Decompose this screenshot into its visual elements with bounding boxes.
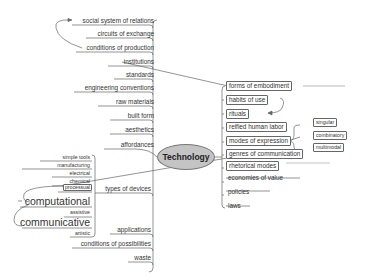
node-built-form[interactable]: built form <box>128 113 154 119</box>
node-processual[interactable]: processual <box>63 184 92 191</box>
connector-lines <box>0 0 367 280</box>
central-topic-label: Technology <box>162 152 209 162</box>
node-communicative[interactable]: communicative <box>20 217 90 228</box>
node-standards[interactable]: standards <box>126 72 154 78</box>
node-computational[interactable]: computational <box>25 196 90 207</box>
node-forms-of-embodiment[interactable]: forms of embodiment <box>226 81 292 91</box>
node-raw-materials[interactable]: raw materials <box>116 99 154 105</box>
central-topic-technology[interactable]: Technology <box>157 144 215 170</box>
node-engineering-conventions[interactable]: engineering conventions <box>85 85 154 91</box>
node-conditions-of-production[interactable]: conditions of production <box>86 45 154 51</box>
node-modes-of-expression[interactable]: modes of expression <box>226 136 291 146</box>
node-social-system-of-relations[interactable]: social system of relations <box>83 18 154 24</box>
node-types-of-devices[interactable]: types of devices <box>105 186 151 192</box>
node-genres-of-communication[interactable]: genres of communication <box>226 149 303 159</box>
node-electrical[interactable]: electrical <box>70 171 90 176</box>
node-circuits-of-exchange[interactable]: circuits of exchange <box>98 31 154 37</box>
node-aesthetics[interactable]: aesthetics <box>125 127 154 133</box>
node-habits-of-use[interactable]: habits of use <box>226 95 268 105</box>
node-policies[interactable]: policies <box>228 189 249 195</box>
node-conditions-of-possibilities[interactable]: conditions of possibilities <box>81 241 151 247</box>
mind-map-canvas: social system of relations circuits of e… <box>0 0 367 280</box>
node-applications[interactable]: applications <box>117 227 151 233</box>
node-manufacturing[interactable]: manufacturing <box>57 163 90 168</box>
node-economies-of-value[interactable]: economies of value <box>228 175 283 181</box>
node-artistic[interactable]: artistic <box>75 231 90 236</box>
node-laws[interactable]: laws <box>228 203 241 209</box>
node-rituals[interactable]: rituals <box>226 109 249 119</box>
node-rhetorical-modes[interactable]: rhetorical modes <box>226 161 279 171</box>
node-waste[interactable]: waste <box>134 255 151 261</box>
node-multimodal[interactable]: multimodal <box>313 143 344 152</box>
node-combinatory[interactable]: combinatory <box>313 131 347 140</box>
node-assistive[interactable]: assistive <box>70 210 90 215</box>
node-institutions[interactable]: institutions <box>124 59 154 65</box>
node-simple-tools[interactable]: simple tools <box>63 155 90 160</box>
node-reified-human-labor[interactable]: reified human labor <box>226 122 287 132</box>
node-affordances[interactable]: affordances <box>121 142 154 148</box>
node-singular[interactable]: singular <box>313 118 337 127</box>
